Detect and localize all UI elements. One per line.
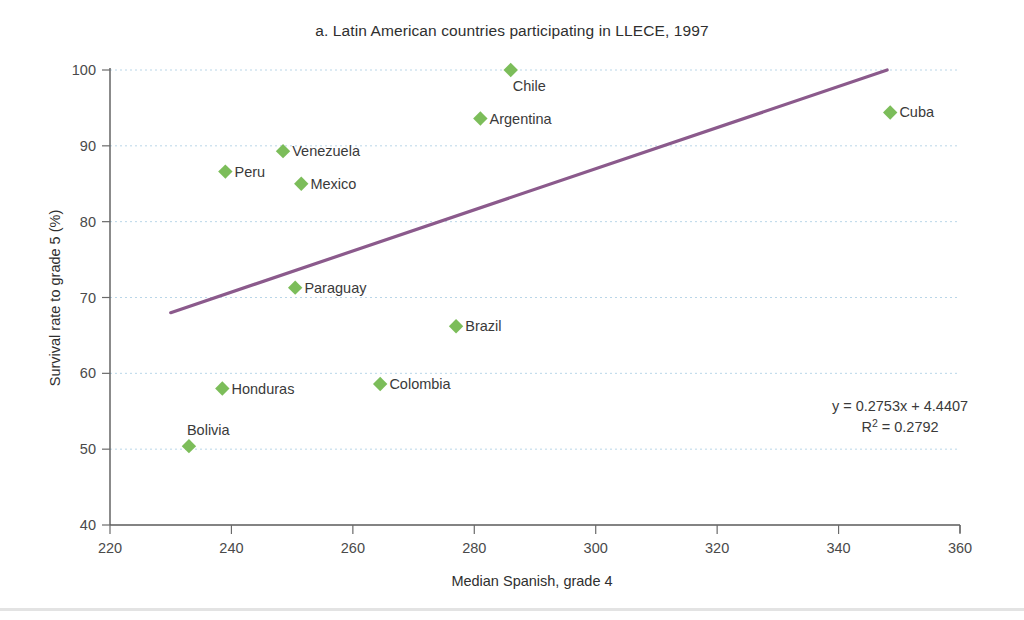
- trendline: [171, 70, 887, 313]
- x-tick-label: 340: [826, 540, 850, 556]
- x-tick-label: 300: [584, 540, 608, 556]
- diamond-marker[interactable]: [182, 439, 196, 453]
- diamond-marker[interactable]: [218, 164, 232, 178]
- chart-container: a. Latin American countries participatin…: [0, 0, 1024, 620]
- point-label: Honduras: [232, 381, 295, 397]
- y-tick-label: 80: [80, 214, 96, 230]
- y-tick-label: 100: [72, 62, 96, 78]
- data-point[interactable]: Argentina: [473, 111, 552, 127]
- regression-equation: y = 0.2753x + 4.4407: [832, 398, 968, 414]
- y-tick-label: 70: [80, 290, 96, 306]
- data-points-group: ChileArgentinaVenezuelaPeruMexicoParagua…: [182, 63, 935, 454]
- r-squared-value: R2 = 0.2792: [861, 417, 938, 435]
- x-tick-label: 280: [462, 540, 486, 556]
- data-point[interactable]: Bolivia: [182, 422, 231, 453]
- r-squared-text: R: [861, 419, 871, 435]
- diamond-marker[interactable]: [373, 377, 387, 391]
- axes-group: [110, 68, 960, 533]
- data-point[interactable]: Colombia: [373, 376, 452, 392]
- y-tick-label: 90: [80, 138, 96, 154]
- point-label: Paraguay: [304, 280, 367, 296]
- diamond-marker[interactable]: [276, 144, 290, 158]
- x-tick-label: 220: [98, 540, 122, 556]
- data-point[interactable]: Peru: [218, 164, 265, 180]
- diamond-marker[interactable]: [215, 381, 229, 395]
- data-point[interactable]: Brazil: [449, 318, 502, 334]
- point-label: Brazil: [465, 318, 501, 334]
- diamond-marker[interactable]: [294, 177, 308, 191]
- scatter-plot: 220240260280300320340360 405060708090100…: [0, 0, 1024, 620]
- point-label: Peru: [235, 164, 266, 180]
- y-tick-label: 50: [80, 441, 96, 457]
- y-tick-label: 60: [80, 365, 96, 381]
- footer-rule: [0, 608, 1024, 611]
- y-tick-group: 405060708090100: [72, 62, 110, 533]
- y-tick-label: 40: [80, 517, 96, 533]
- data-point[interactable]: Paraguay: [288, 280, 367, 296]
- diamond-marker[interactable]: [288, 280, 302, 294]
- x-tick-label: 320: [705, 540, 729, 556]
- data-point[interactable]: Cuba: [883, 104, 935, 120]
- diamond-marker[interactable]: [504, 63, 518, 77]
- x-tick-label: 360: [948, 540, 972, 556]
- data-point[interactable]: Chile: [504, 63, 546, 94]
- data-point[interactable]: Venezuela: [276, 143, 361, 159]
- diamond-marker[interactable]: [473, 111, 487, 125]
- point-label: Argentina: [490, 111, 553, 127]
- x-tick-group: 220240260280300320340360: [98, 525, 972, 556]
- trendline-group: [171, 70, 887, 313]
- x-axis-title: Median Spanish, grade 4: [451, 573, 612, 589]
- x-tick-label: 240: [219, 540, 243, 556]
- point-label: Cuba: [899, 104, 935, 120]
- point-label: Mexico: [310, 176, 356, 192]
- data-point[interactable]: Mexico: [294, 176, 356, 192]
- diamond-marker[interactable]: [449, 319, 463, 333]
- point-label: Venezuela: [292, 143, 361, 159]
- point-label: Colombia: [389, 376, 451, 392]
- y-axis-title: Survival rate to grade 5 (%): [47, 210, 63, 387]
- point-label: Bolivia: [187, 422, 231, 438]
- diamond-marker[interactable]: [883, 105, 897, 119]
- data-point[interactable]: Honduras: [215, 381, 294, 397]
- point-label: Chile: [513, 78, 546, 94]
- x-tick-label: 260: [341, 540, 365, 556]
